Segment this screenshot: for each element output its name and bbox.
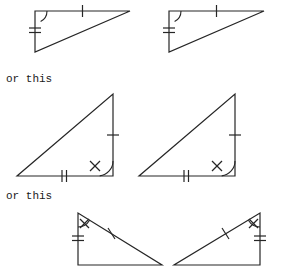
single-tick-mark (108, 228, 115, 239)
caption-or-this-1: or this (6, 73, 52, 85)
triangle-outline (139, 94, 235, 176)
triangle-middle-left (17, 94, 119, 182)
caption-or-this-2: or this (6, 190, 52, 202)
geometry-figure: or this or this (0, 0, 288, 274)
triangle-bottom-right (174, 213, 266, 265)
triangle-outline (78, 213, 162, 265)
right-angle-arc-icon (175, 11, 181, 22)
right-angle-arc-icon (41, 11, 47, 22)
triangle-middle-right (139, 94, 241, 182)
triangle-outline (169, 11, 264, 52)
triangle-top-left (29, 5, 130, 52)
single-tick-mark (222, 228, 229, 239)
triangle-bottom-left (72, 213, 162, 265)
right-angle-arc-icon (100, 161, 113, 176)
triangle-diagram-svg: or this or this (0, 0, 288, 274)
triangle-outline (35, 11, 130, 52)
triangle-top-right (163, 5, 264, 52)
triangle-outline (17, 94, 113, 176)
right-angle-arc-icon (222, 161, 235, 176)
triangle-outline (174, 213, 260, 265)
